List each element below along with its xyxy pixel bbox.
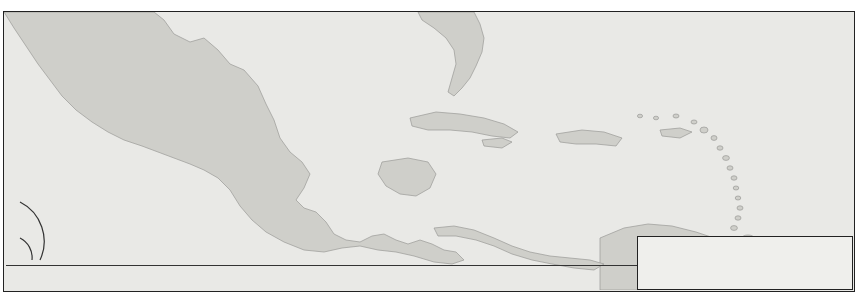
isthmus-landmass [434,226,604,270]
puertorico-landmass [660,128,692,138]
map-infographic [0,0,860,296]
scale-arcs [12,198,80,268]
map-frame [3,11,855,292]
jamaica-landmass [482,138,512,148]
scale-caption [12,172,68,189]
chart-caption [10,267,510,287]
cuba-landmass [410,112,518,138]
hispaniola-landmass [556,130,622,146]
yucatan-landmass [378,158,436,196]
page-title [0,0,860,10]
legend [637,236,853,290]
scale-key [12,172,80,267]
florida-landmass [418,12,484,96]
